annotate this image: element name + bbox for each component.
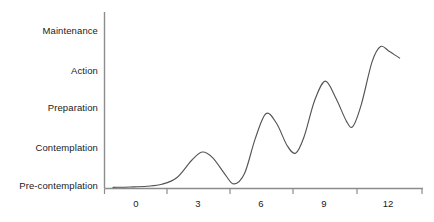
chart-container: Maintenance Action Preparation Contempla… (0, 0, 434, 222)
x-tick-label-12: 12 (383, 199, 394, 209)
x-tick-label-9: 9 (321, 199, 326, 209)
x-tick-label-3: 3 (195, 199, 200, 209)
x-tick-label-0: 0 (133, 199, 138, 209)
x-tick-label-6: 6 (258, 199, 263, 209)
x-axis-tick-labels: 0 3 6 9 12 (0, 0, 434, 222)
